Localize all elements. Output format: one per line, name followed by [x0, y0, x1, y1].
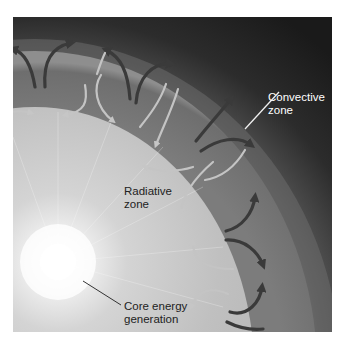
convective-zone-label-line2: zone — [268, 104, 325, 117]
radiative-zone-label: Radiative zone — [124, 185, 172, 211]
core-energy-label-line2: generation — [124, 313, 187, 326]
convective-zone-label: Convective zone — [268, 91, 325, 117]
diagram-canvas — [13, 17, 332, 332]
radiative-zone-label-line2: zone — [124, 198, 172, 211]
sun-interior-diagram: Convective zone Radiative zone Core ener… — [13, 17, 332, 332]
core-energy-label: Core energy generation — [124, 300, 187, 326]
core-energy-label-line1: Core energy — [124, 300, 187, 313]
radiative-zone-label-line1: Radiative — [124, 185, 172, 198]
core-center — [40, 244, 76, 280]
convective-zone-label-line1: Convective — [268, 91, 325, 104]
